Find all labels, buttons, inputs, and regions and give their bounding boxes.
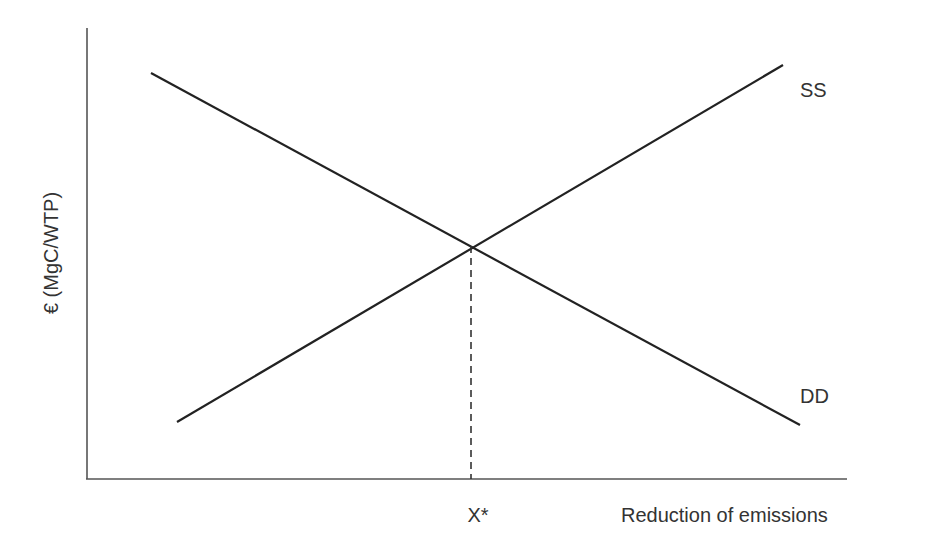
supply-label: SS — [800, 79, 827, 101]
x-axis-label: Reduction of emissions — [621, 504, 828, 526]
supply-curve-ss — [177, 65, 783, 422]
y-axis-label: € (MgC/WTP) — [40, 192, 62, 314]
demand-label: DD — [800, 385, 829, 407]
supply-demand-diagram: € (MgC/WTP) Reduction of emissions X* SS… — [0, 0, 927, 550]
demand-curve-dd — [151, 73, 800, 425]
equilibrium-label: X* — [467, 504, 488, 526]
